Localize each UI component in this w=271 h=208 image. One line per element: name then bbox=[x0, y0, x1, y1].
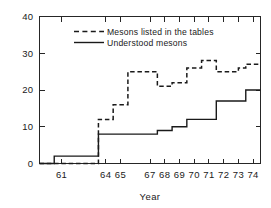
x-axis-tick-labels: 6164656768697071727374 bbox=[56, 169, 259, 180]
chart-canvas: 010203040 6164656768697071727374 Year Me… bbox=[0, 0, 271, 208]
y-tick-label: 20 bbox=[22, 84, 33, 95]
x-tick-label: 65 bbox=[115, 169, 126, 180]
legend: Mesons listed in the tables Understood m… bbox=[74, 27, 214, 48]
x-tick-label: 69 bbox=[174, 169, 185, 180]
x-tick-label: 61 bbox=[56, 169, 67, 180]
y-tick-label: 10 bbox=[22, 121, 33, 132]
series-line-mesons-listed bbox=[40, 61, 261, 164]
meson-count-chart-figure: 010203040 6164656768697071727374 Year Me… bbox=[0, 0, 271, 208]
x-tick-label: 70 bbox=[189, 169, 200, 180]
y-axis-tick-labels: 010203040 bbox=[22, 11, 33, 169]
x-tick-label: 67 bbox=[144, 169, 155, 180]
legend-label-mesons-listed: Mesons listed in the tables bbox=[107, 27, 214, 37]
y-tick-label: 30 bbox=[22, 48, 33, 59]
x-tick-label: 73 bbox=[233, 169, 244, 180]
x-axis-title: Year bbox=[140, 191, 161, 202]
x-tick-label: 68 bbox=[159, 169, 170, 180]
x-tick-label: 71 bbox=[203, 169, 214, 180]
legend-label-understood-mesons: Understood mesons bbox=[107, 38, 187, 48]
y-tick-label: 0 bbox=[28, 158, 34, 169]
x-tick-label: 74 bbox=[247, 169, 258, 180]
series-line-understood-mesons bbox=[40, 90, 261, 164]
x-tick-label: 72 bbox=[218, 169, 229, 180]
x-tick-label: 64 bbox=[100, 169, 111, 180]
y-tick-label: 40 bbox=[22, 11, 33, 22]
